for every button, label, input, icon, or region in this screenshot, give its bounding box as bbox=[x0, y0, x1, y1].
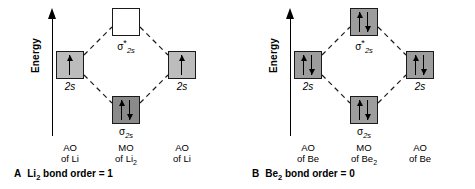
electron-spins-antibonding-b bbox=[356, 12, 372, 32]
electron-arrow-up bbox=[300, 55, 308, 75]
caption-bond-order: bond order = 0 bbox=[282, 168, 355, 179]
orbital-box-ao-left-b bbox=[294, 51, 322, 79]
electron-spins-bonding-b bbox=[356, 100, 372, 120]
footer-ao-right-b: AO of Be bbox=[385, 142, 455, 164]
electron-arrow-up bbox=[178, 55, 186, 75]
electron-arrow-down bbox=[364, 12, 372, 32]
orbital-label-ao-right-b: 2s bbox=[390, 81, 450, 92]
caption-species: Li bbox=[27, 168, 36, 179]
orbital-label-antibonding-a: σ*2s bbox=[96, 38, 156, 55]
orbital-label-ao-left-a: 2s bbox=[40, 81, 100, 92]
energy-axis-line bbox=[52, 14, 53, 136]
electron-spins-bonding-a bbox=[118, 100, 134, 120]
electron-arrow-up bbox=[66, 55, 74, 75]
orbital-box-bonding-a bbox=[112, 96, 140, 124]
orbital-label-bonding-b: σ2s bbox=[334, 126, 394, 140]
electron-arrow-up bbox=[118, 100, 126, 120]
orbital-box-ao-right-a bbox=[168, 51, 196, 79]
orbital-label-ao-right-a: 2s bbox=[152, 81, 212, 92]
footer-line1: AO bbox=[385, 142, 455, 153]
electron-arrow-down bbox=[308, 55, 316, 75]
electron-spins-ao-left-a bbox=[66, 55, 74, 75]
panel-li2: Energy σ*2s 2s 2s bbox=[0, 0, 237, 189]
footer-line2: of Be bbox=[385, 153, 455, 164]
orbital-label-antibonding-b: σ*2s bbox=[334, 38, 394, 55]
panel-caption-a: ALi2 bond order = 1 bbox=[14, 168, 113, 182]
electron-arrow-up bbox=[412, 55, 420, 75]
orbital-box-bonding-b bbox=[350, 96, 378, 124]
panel-letter-a: A bbox=[14, 168, 21, 179]
footer-line1: AO bbox=[147, 142, 217, 153]
mo-diagram-figure: Energy σ*2s 2s 2s bbox=[0, 0, 475, 189]
orbital-box-antibonding-a bbox=[112, 8, 140, 36]
electron-arrow-down bbox=[126, 100, 134, 120]
orbital-box-ao-left-a bbox=[56, 51, 84, 79]
electron-arrow-down bbox=[420, 55, 428, 75]
orbital-box-ao-right-b bbox=[406, 51, 434, 79]
footer-ao-right-a: AO of Li bbox=[147, 142, 217, 164]
panel-letter-b: B bbox=[252, 168, 259, 179]
energy-axis-label: Energy bbox=[30, 22, 41, 90]
electron-arrow-down bbox=[364, 100, 372, 120]
caption-bond-order: bond order = 1 bbox=[40, 168, 113, 179]
electron-spins-ao-left-b bbox=[300, 55, 316, 75]
electron-spins-ao-right-b bbox=[412, 55, 428, 75]
orbital-label-ao-left-b: 2s bbox=[278, 81, 338, 92]
orbital-box-antibonding-b bbox=[350, 8, 378, 36]
panel-be2: Energy σ*2s 2s 2s σ2s bbox=[238, 0, 475, 189]
energy-axis-label: Energy bbox=[268, 22, 279, 90]
electron-arrow-up bbox=[356, 100, 364, 120]
energy-axis-line bbox=[290, 14, 291, 136]
caption-species: Be bbox=[265, 168, 278, 179]
electron-spins-ao-right-a bbox=[178, 55, 186, 75]
footer-line2: of Li bbox=[147, 153, 217, 164]
electron-arrow-up bbox=[356, 12, 364, 32]
panel-caption-b: BBe2 bond order = 0 bbox=[252, 168, 355, 182]
orbital-label-bonding-a: σ2s bbox=[96, 126, 156, 140]
